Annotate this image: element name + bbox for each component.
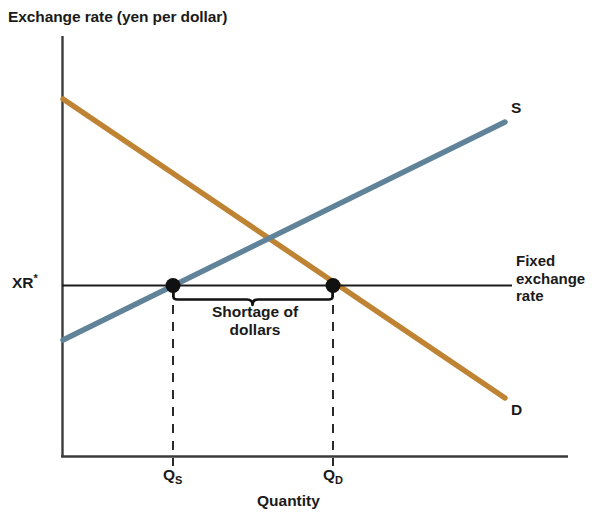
demand-quantity-point: [326, 278, 341, 293]
qs-subscript: S: [175, 474, 182, 486]
qs-base: Q: [163, 466, 175, 483]
qd-subscript: D: [335, 474, 343, 486]
supply-curve-label: S: [511, 99, 521, 117]
exchange-rate-chart: Exchange rate (yen per dollar) XR* Fixed…: [0, 0, 602, 515]
qs-tick-label: QS: [163, 466, 182, 484]
supply-quantity-point: [166, 278, 181, 293]
y-axis-title: Exchange rate (yen per dollar): [8, 8, 227, 26]
qd-base: Q: [323, 466, 335, 483]
chart-canvas: [0, 0, 602, 515]
shortage-annotation-label: Shortage of dollars: [190, 303, 320, 340]
x-axis-title: Quantity: [257, 492, 320, 510]
fixed-exchange-rate-label: Fixed exchange rate: [516, 252, 602, 305]
xr-text: XR: [12, 274, 34, 291]
demand-curve-label: D: [511, 401, 522, 419]
xr-star-tick-label: XR*: [12, 274, 38, 292]
xr-star: *: [34, 272, 38, 284]
qd-tick-label: QD: [323, 466, 343, 484]
